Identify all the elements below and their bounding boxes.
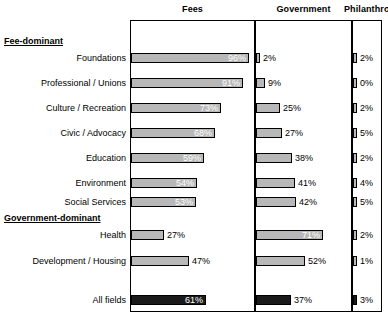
bar-philanthropy-social-services [353,197,357,207]
row-label-education: Education [0,153,126,163]
bar-philanthropy-development-housing [353,256,357,266]
bar-chart: Fees Government Philanthropy Fee-dominan… [0,0,388,324]
value-label-philanthropy-foundations: 2% [360,53,373,63]
value-label-philanthropy-education: 2% [360,153,373,163]
value-label-fees-culture-recreation: 73% [196,103,218,113]
value-label-government-professional-unions: 9% [268,78,281,88]
bar-government-all-fields [256,295,291,305]
value-label-fees-social-services: 53% [171,197,193,207]
value-label-fees-education: 59% [179,153,201,163]
value-label-government-health: 71% [298,230,320,240]
bar-government-education [256,153,292,163]
bar-fees-health [131,230,164,240]
column-header-government: Government [255,4,352,14]
bar-government-culture-recreation [256,103,280,113]
section-header-fee-dominant: Fee-dominant [4,36,63,46]
bar-government-environment [256,178,295,188]
bar-fees-development-housing [131,256,189,266]
column-header-fees: Fees [130,4,255,14]
value-label-fees-civic-advocacy: 68% [190,128,212,138]
value-label-philanthropy-social-services: 5% [360,197,373,207]
row-label-civic-advocacy: Civic / Advocacy [0,128,126,138]
bar-philanthropy-environment [353,178,357,188]
value-label-fees-foundations: 96% [224,53,246,63]
value-label-government-civic-advocacy: 27% [285,128,303,138]
value-label-government-social-services: 42% [299,197,317,207]
value-label-philanthropy-all-fields: 3% [360,295,373,305]
value-label-government-development-housing: 52% [308,256,326,266]
bar-philanthropy-civic-advocacy [353,128,357,138]
value-label-fees-development-housing: 47% [192,256,210,266]
bar-philanthropy-education [353,153,357,163]
bar-government-foundations [256,53,260,63]
row-label-health: Health [0,230,126,240]
row-label-foundations: Foundations [0,53,126,63]
value-label-philanthropy-health: 2% [360,230,373,240]
value-label-philanthropy-development-housing: 1% [360,256,373,266]
value-label-government-environment: 41% [298,178,316,188]
bar-government-civic-advocacy [256,128,282,138]
value-label-philanthropy-environment: 4% [360,178,373,188]
row-label-professional-unions: Professional / Unions [0,78,126,88]
bar-philanthropy-foundations [353,53,357,63]
row-label-development-housing: Development / Housing [0,256,126,266]
bar-philanthropy-all-fields [353,295,357,305]
value-label-philanthropy-civic-advocacy: 5% [360,128,373,138]
value-label-government-education: 38% [295,153,313,163]
value-label-fees-professional-unions: 91% [218,78,240,88]
bar-government-professional-unions [256,78,265,88]
bar-government-development-housing [256,256,305,266]
column-header-philanthropy: Philanthropy [344,4,388,14]
bar-philanthropy-culture-recreation [353,103,357,113]
value-label-philanthropy-professional-unions: 0% [360,78,373,88]
value-label-fees-environment: 54% [172,178,194,188]
row-label-culture-recreation: Culture / Recreation [0,103,126,113]
bar-philanthropy-health [353,230,357,240]
value-label-government-foundations: 2% [263,53,276,63]
panel-government [255,20,352,312]
value-label-fees-all-fields: 61% [181,295,203,305]
value-label-government-culture-recreation: 25% [283,103,301,113]
value-label-government-all-fields: 37% [294,295,312,305]
row-label-social-services: Social Services [0,197,126,207]
panel-fees [130,20,255,312]
bar-philanthropy-professional-unions [353,78,357,88]
section-header-government-dominant: Government-dominant [4,213,101,223]
bar-government-social-services [256,197,296,207]
row-label-environment: Environment [0,178,126,188]
panel-philanthropy [352,20,382,312]
value-label-philanthropy-culture-recreation: 2% [360,103,373,113]
row-label-all-fields: All fields [0,295,126,305]
value-label-fees-health: 27% [167,230,185,240]
